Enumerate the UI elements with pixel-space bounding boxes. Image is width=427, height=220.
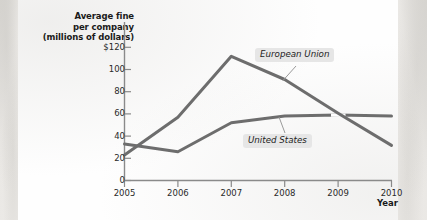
x-tick-label-2008: 2008: [262, 189, 308, 198]
y-tick-label-120: $120: [82, 43, 125, 52]
x-tick-label-2007: 2007: [208, 189, 254, 198]
y-tick-label-60: 60: [85, 109, 125, 118]
y-tick-label-20: 20: [85, 154, 125, 163]
series-annotation-european-union: European Union: [255, 48, 334, 62]
x-tick-label-2006: 2006: [155, 189, 201, 198]
chart-svg: [0, 0, 427, 220]
x-tick-marks: [125, 181, 392, 188]
y-tick-label-0: 0: [85, 176, 125, 185]
x-tick-label-2005: 2005: [102, 189, 148, 198]
x-tick-label-2010: 2010: [369, 189, 415, 198]
x-tick-label-2009: 2009: [315, 189, 361, 198]
y-tick-label-40: 40: [85, 132, 125, 141]
y-tick-marks: [125, 47, 132, 180]
x-axis-caption: Year: [377, 198, 398, 208]
leader-line-european-union: [283, 66, 296, 81]
y-tick-label-100: 100: [85, 65, 125, 74]
y-tick-label-80: 80: [85, 87, 125, 96]
figure-root: Average fine per company (millions of do…: [0, 0, 427, 220]
series-annotation-united-states: United States: [243, 134, 312, 148]
leader-line-united-states: [279, 117, 285, 133]
